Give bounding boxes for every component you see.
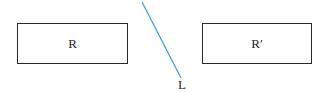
mirror-line [0, 0, 325, 92]
mirror-line-label: L [178, 77, 186, 92]
